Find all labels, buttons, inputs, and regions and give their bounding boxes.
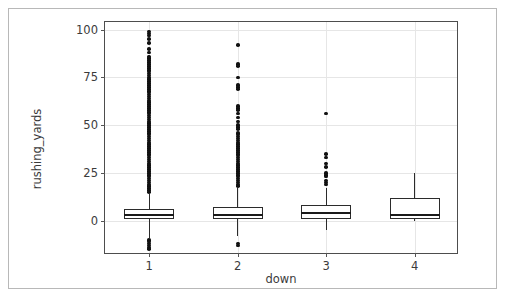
y-tick-label: 100 — [76, 23, 98, 37]
y-tick-label: 75 — [83, 70, 98, 84]
x-tick-label: 4 — [411, 259, 418, 273]
outlier-point — [324, 183, 328, 187]
whisker-lower — [326, 219, 327, 230]
y-tick-label: 25 — [83, 166, 98, 180]
outlier-point — [236, 64, 240, 68]
median-line-2 — [213, 214, 263, 216]
x-axis-label: down — [265, 272, 296, 286]
whisker-upper — [326, 188, 327, 205]
median-line-4 — [390, 214, 440, 216]
outlier-point — [236, 244, 240, 248]
y-gridline — [105, 125, 457, 126]
y-tick-mark — [101, 125, 105, 126]
outlier-point — [236, 87, 240, 91]
median-line-1 — [124, 214, 174, 216]
outlier-point — [236, 116, 240, 120]
whisker-upper — [237, 188, 238, 207]
outlier-point — [324, 175, 328, 179]
y-tick-label: 0 — [91, 214, 98, 228]
outlier-point — [236, 43, 240, 47]
x-tick-label: 2 — [234, 259, 241, 273]
outlier-point — [147, 47, 151, 51]
y-gridline — [105, 221, 457, 222]
y-tick-mark — [101, 221, 105, 222]
y-tick-label: 50 — [83, 118, 98, 132]
box-2 — [213, 207, 263, 218]
outlier-point — [147, 247, 151, 251]
outlier-point — [236, 184, 240, 188]
outlier-point — [147, 190, 151, 194]
y-gridline — [105, 173, 457, 174]
y-tick-mark — [101, 77, 105, 78]
figure-panel: rushing_yards down 02550751001234 — [8, 8, 497, 289]
y-tick-mark — [101, 173, 105, 174]
outlier-point — [147, 41, 151, 45]
x-tick-mark — [149, 253, 150, 257]
y-axis-label: rushing_yards — [30, 108, 44, 189]
whisker-lower — [414, 219, 415, 221]
plot-area — [105, 22, 457, 253]
outlier-point — [324, 165, 328, 169]
whisker-upper — [414, 173, 415, 198]
whisker-lower — [237, 219, 238, 236]
x-tick-mark — [326, 253, 327, 257]
outlier-point — [236, 76, 240, 80]
outlier-point — [324, 112, 328, 116]
plot-axes: 02550751001234 — [104, 21, 458, 254]
outlier-point — [324, 156, 328, 160]
y-gridline — [105, 30, 457, 31]
x-tick-mark — [238, 253, 239, 257]
x-tick-label: 1 — [146, 259, 153, 273]
median-line-3 — [301, 212, 351, 214]
outlier-point — [147, 51, 151, 55]
whisker-lower — [149, 219, 150, 238]
outlier-point — [236, 112, 240, 116]
y-tick-mark — [101, 30, 105, 31]
whisker-upper — [149, 194, 150, 209]
y-gridline — [105, 77, 457, 78]
x-tick-mark — [415, 253, 416, 257]
x-tick-label: 3 — [323, 259, 330, 273]
